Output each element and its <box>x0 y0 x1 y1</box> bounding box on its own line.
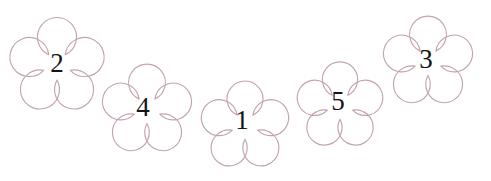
flower-diagram: 24153 <box>0 0 491 181</box>
flower-2-label: 2 <box>50 48 64 78</box>
flower-3[interactable]: 3 <box>383 16 472 103</box>
flower-5-label: 5 <box>331 86 345 116</box>
flower-4-label: 4 <box>136 92 150 122</box>
flower-2[interactable]: 2 <box>10 17 104 108</box>
flower-layer: 24153 <box>10 16 473 166</box>
diagram-canvas: 24153 <box>0 0 491 181</box>
flower-4[interactable]: 4 <box>102 64 191 151</box>
flower-1-label: 1 <box>235 105 249 135</box>
flower-5[interactable]: 5 <box>297 62 383 145</box>
flower-3-label: 3 <box>419 44 433 74</box>
flower-1[interactable]: 1 <box>201 81 288 166</box>
